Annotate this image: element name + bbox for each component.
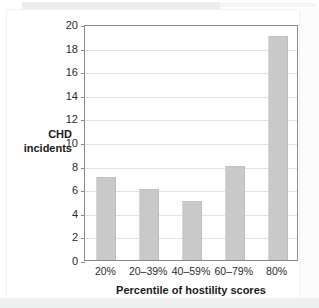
y-axis-tickmark [81,73,85,74]
bar [268,36,288,260]
x-axis-tick-label: 80% [255,266,298,277]
page-edge-strip-top [22,2,220,9]
y-axis-tickmark [81,262,85,263]
gridline [85,168,297,169]
gridline [85,97,297,98]
bar [182,201,202,260]
bar [139,189,159,260]
y-axis-tickmark [81,238,85,239]
y-axis-tick-label: 16 [56,67,78,78]
x-axis-tick-label: 20% [84,266,127,277]
gridline [85,191,297,192]
x-axis-tick-label: 20–39% [127,266,170,277]
figure-root: CHD incidents 02468101214161820 20%20–39… [0,0,319,308]
bar [96,177,116,260]
y-axis-tick-label: 4 [56,209,78,220]
gridline [85,120,297,121]
bar [225,166,245,260]
y-axis-tickmark [81,50,85,51]
gridline [85,144,297,145]
y-axis-tickmark [81,215,85,216]
y-axis-tick-label: 20 [56,20,78,31]
y-axis-tick-label: 18 [56,44,78,55]
y-axis-tick-label: 6 [56,185,78,196]
gridline [85,73,297,74]
y-axis-tickmark [81,191,85,192]
y-axis-tick-label: 0 [56,256,78,267]
y-axis-tickmark [81,97,85,98]
y-axis-tickmark [81,26,85,27]
plot-area [84,25,298,261]
y-axis-tick-label: 8 [56,162,78,173]
y-axis-tick-label: 2 [56,232,78,243]
y-axis-tick-label: 14 [56,91,78,102]
y-axis-tickmark [81,144,85,145]
page-edge-strip-right [300,8,319,300]
y-axis-tick-label: 12 [56,114,78,125]
x-axis-title: Percentile of hostility scores [84,284,298,297]
y-axis-tickmark [81,168,85,169]
page-edge-strip-bottom [0,298,319,308]
x-axis-tick-label: 40–59% [170,266,213,277]
page-edge-strip-top-right [220,3,316,7]
gridline [85,50,297,51]
x-axis-tick-label: 60–79% [212,266,255,277]
y-axis-tick-label: 10 [56,138,78,149]
y-axis-tickmark [81,120,85,121]
